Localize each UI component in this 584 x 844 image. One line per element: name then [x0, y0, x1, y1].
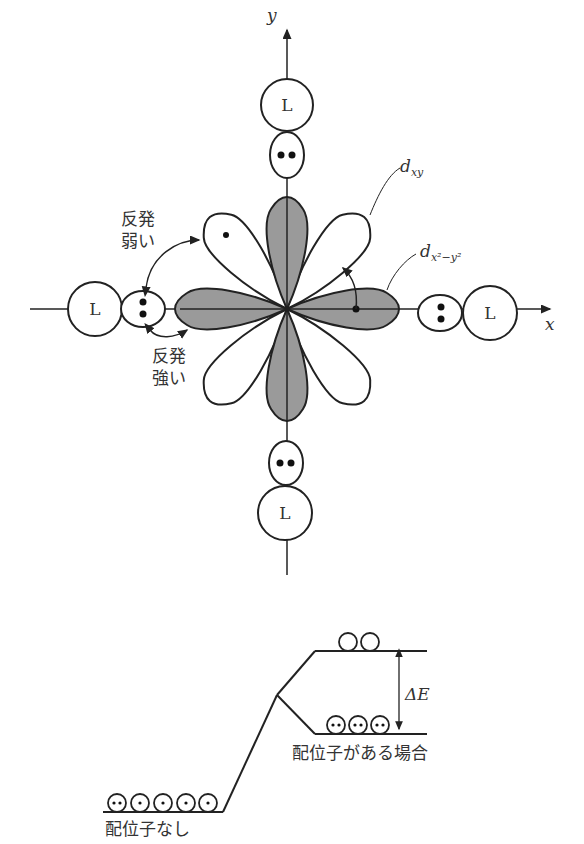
ligand-bottom: [258, 441, 312, 540]
no-ligand-label: 配位子なし: [105, 818, 190, 840]
degenerate-d-orbitals: [108, 794, 217, 812]
y-axis-label: y: [267, 4, 277, 26]
strong-repulsion-arrow: [150, 330, 187, 337]
eg-orbitals: [339, 633, 379, 651]
ligand-right: [418, 286, 517, 340]
diagram-canvas: [0, 0, 584, 844]
t2g-orbitals: [327, 716, 389, 734]
with-ligand-label: 配位子がある場合: [292, 742, 428, 764]
electron-dot-dxy: [223, 232, 229, 238]
delta-e-label: ΔE: [405, 683, 430, 705]
strong-repulsion-label: 反発 強い: [152, 345, 186, 389]
dx2y2-label: dx²−y²: [420, 240, 461, 269]
dxy-label: dxy: [400, 155, 423, 184]
ligand-left: [68, 282, 165, 336]
x-axis-label: x: [545, 313, 555, 335]
ligand-label-left: L: [89, 298, 100, 320]
crystal-field-diagram: y x L L L L dxy dx²−y² 反発 弱い 反発 強い ΔE 配位…: [0, 0, 584, 844]
ligand-label-right: L: [484, 302, 495, 324]
weak-repulsion-label: 反発 弱い: [121, 208, 155, 252]
ligand-label-bottom: L: [279, 502, 290, 524]
ligand-label-top: L: [281, 94, 292, 116]
